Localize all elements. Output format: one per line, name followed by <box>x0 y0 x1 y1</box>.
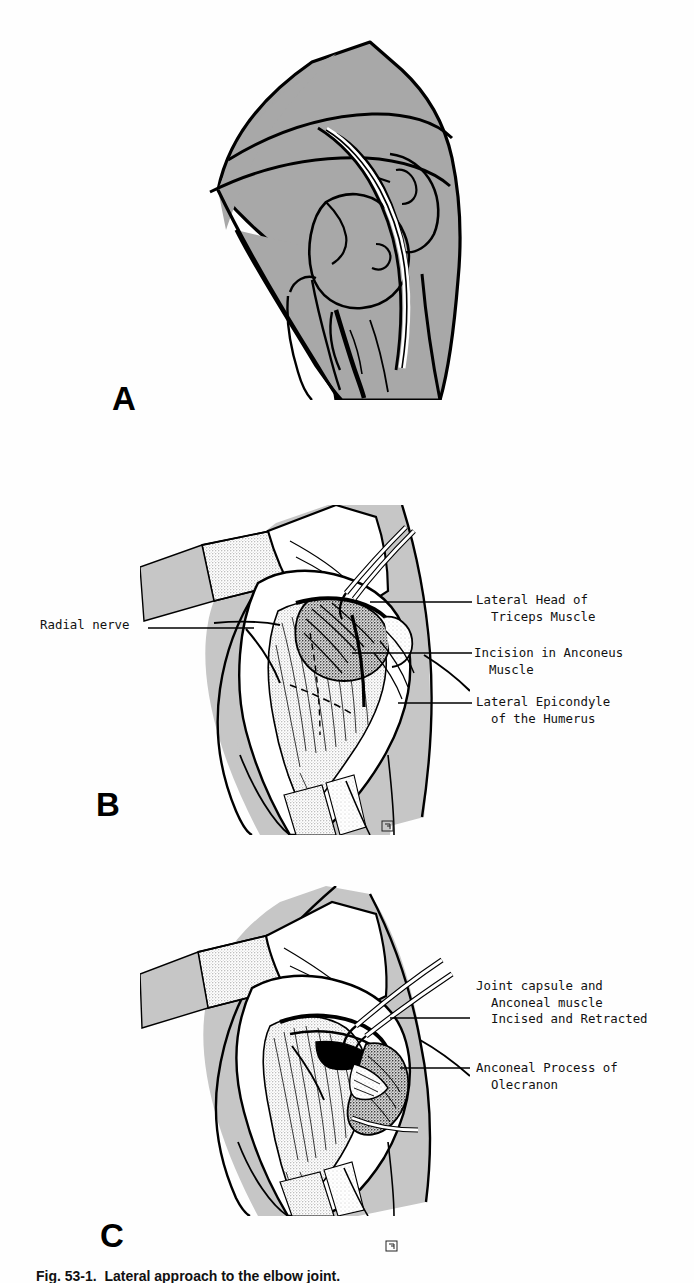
panel-letter-c: C <box>100 1217 124 1255</box>
panel-c-illustration <box>140 886 470 1216</box>
figure-page: A <box>0 0 694 1283</box>
label-incision-anconeus: Incision in Anconeus Muscle <box>474 645 623 678</box>
panel-a-illustration <box>140 30 500 400</box>
label-joint-capsule-anconeal: Joint capsule and Anconeal muscle Incise… <box>476 978 648 1028</box>
label-radial-nerve: Radial nerve <box>40 617 130 634</box>
figure-caption: Fig. 53-1. Lateral approach to the elbow… <box>36 1268 340 1283</box>
artist-signature-c <box>384 1238 400 1256</box>
label-anconeal-process: Anconeal Process of Olecranon <box>476 1060 618 1093</box>
label-lateral-head-triceps: Lateral Head of Triceps Muscle <box>476 592 595 625</box>
panel-letter-b: B <box>96 786 120 824</box>
artist-signature-b <box>380 818 396 836</box>
panel-b-illustration <box>140 505 470 835</box>
label-lateral-epicondyle: Lateral Epicondyle of the Humerus <box>476 694 610 727</box>
panel-letter-a: A <box>112 380 136 418</box>
